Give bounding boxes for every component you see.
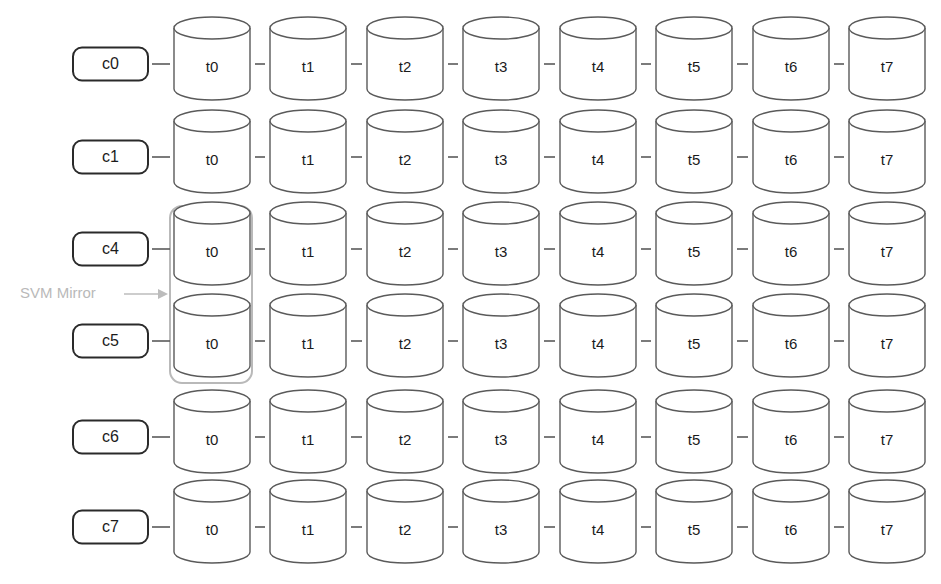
tier-cylinder-c0-t4[interactable]: t4 bbox=[560, 17, 636, 100]
node-box-shape bbox=[73, 511, 148, 544]
node-box-shape bbox=[73, 141, 148, 174]
node-box-shape bbox=[73, 325, 148, 358]
node-box-c7[interactable]: c7 bbox=[73, 511, 148, 544]
node-box-c5[interactable]: c5 bbox=[73, 325, 148, 358]
cylinder-top-ellipse bbox=[367, 294, 443, 316]
tier-cylinders-layer: t0t1t2t3t4t5t6t7t0t1t2t3t4t5t6t7t0t1t2t3… bbox=[174, 17, 925, 563]
cylinder-top-ellipse bbox=[270, 17, 346, 39]
tier-cylinder-c7-t7[interactable]: t7 bbox=[849, 480, 925, 563]
cylinder-top-ellipse bbox=[753, 110, 829, 132]
cylinder-top-ellipse bbox=[463, 110, 539, 132]
tier-cylinder-c0-t1[interactable]: t1 bbox=[270, 17, 346, 100]
tier-cylinder-c1-t6[interactable]: t6 bbox=[753, 110, 829, 193]
tier-cylinder-c7-t4[interactable]: t4 bbox=[560, 480, 636, 563]
cylinder-top-ellipse bbox=[656, 17, 732, 39]
cylinder-top-ellipse bbox=[463, 390, 539, 412]
tier-cylinder-c4-t1[interactable]: t1 bbox=[270, 202, 346, 285]
tier-cylinder-c0-t0[interactable]: t0 bbox=[174, 17, 250, 100]
tier-cylinder-c7-t3[interactable]: t3 bbox=[463, 480, 539, 563]
cylinder-top-ellipse bbox=[753, 202, 829, 224]
cylinder-top-ellipse bbox=[270, 294, 346, 316]
tier-cylinder-c5-t1[interactable]: t1 bbox=[270, 294, 346, 377]
cylinder-top-ellipse bbox=[656, 202, 732, 224]
cylinder-top-ellipse bbox=[656, 294, 732, 316]
tier-cylinder-c6-t7[interactable]: t7 bbox=[849, 390, 925, 473]
tier-cylinder-c4-t4[interactable]: t4 bbox=[560, 202, 636, 285]
cylinder-top-ellipse bbox=[656, 110, 732, 132]
node-box-c4[interactable]: c4 bbox=[73, 233, 148, 266]
cylinder-top-ellipse bbox=[270, 110, 346, 132]
cylinder-top-ellipse bbox=[753, 17, 829, 39]
tier-cylinder-c5-t7[interactable]: t7 bbox=[849, 294, 925, 377]
tier-cylinder-c1-t5[interactable]: t5 bbox=[656, 110, 732, 193]
tier-cylinder-c6-t3[interactable]: t3 bbox=[463, 390, 539, 473]
cylinder-top-ellipse bbox=[753, 294, 829, 316]
tier-cylinder-c6-t4[interactable]: t4 bbox=[560, 390, 636, 473]
tier-cylinder-c5-t5[interactable]: t5 bbox=[656, 294, 732, 377]
tier-cylinder-c7-t2[interactable]: t2 bbox=[367, 480, 443, 563]
tier-cylinder-c5-t6[interactable]: t6 bbox=[753, 294, 829, 377]
tier-cylinder-c0-t7[interactable]: t7 bbox=[849, 17, 925, 100]
cylinder-top-ellipse bbox=[656, 480, 732, 502]
tier-cylinder-c4-t2[interactable]: t2 bbox=[367, 202, 443, 285]
tier-cylinder-c5-t3[interactable]: t3 bbox=[463, 294, 539, 377]
cylinder-top-ellipse bbox=[270, 202, 346, 224]
cylinder-top-ellipse bbox=[270, 390, 346, 412]
tier-cylinder-c1-t2[interactable]: t2 bbox=[367, 110, 443, 193]
tier-cylinder-c1-t0[interactable]: t0 bbox=[174, 110, 250, 193]
tier-cylinder-c1-t1[interactable]: t1 bbox=[270, 110, 346, 193]
tier-cylinder-c4-t7[interactable]: t7 bbox=[849, 202, 925, 285]
tier-cylinder-c0-t3[interactable]: t3 bbox=[463, 17, 539, 100]
tier-cylinder-c1-t4[interactable]: t4 bbox=[560, 110, 636, 193]
cylinder-top-ellipse bbox=[463, 202, 539, 224]
node-box-c6[interactable]: c6 bbox=[73, 421, 148, 454]
cylinder-top-ellipse bbox=[849, 17, 925, 39]
cylinder-top-ellipse bbox=[560, 480, 636, 502]
node-box-c0[interactable]: c0 bbox=[73, 48, 148, 81]
node-boxes-layer: c0c1c4c5c6c7 bbox=[73, 48, 148, 544]
tier-cylinder-c0-t5[interactable]: t5 bbox=[656, 17, 732, 100]
tier-cylinder-c7-t0[interactable]: t0 bbox=[174, 480, 250, 563]
tier-cylinder-c6-t6[interactable]: t6 bbox=[753, 390, 829, 473]
tier-cylinder-c4-t6[interactable]: t6 bbox=[753, 202, 829, 285]
cylinder-top-ellipse bbox=[174, 480, 250, 502]
tier-cylinder-c1-t3[interactable]: t3 bbox=[463, 110, 539, 193]
cylinder-top-ellipse bbox=[463, 294, 539, 316]
cylinder-top-ellipse bbox=[753, 390, 829, 412]
cylinder-top-ellipse bbox=[560, 390, 636, 412]
tier-cylinder-c7-t6[interactable]: t6 bbox=[753, 480, 829, 563]
tier-cylinder-c6-t0[interactable]: t0 bbox=[174, 390, 250, 473]
cylinder-top-ellipse bbox=[849, 390, 925, 412]
tier-cylinder-c4-t3[interactable]: t3 bbox=[463, 202, 539, 285]
node-box-shape bbox=[73, 421, 148, 454]
cylinder-top-ellipse bbox=[270, 480, 346, 502]
tier-cylinder-c5-t0[interactable]: t0 bbox=[174, 294, 250, 377]
tier-cylinder-c5-t4[interactable]: t4 bbox=[560, 294, 636, 377]
tier-cylinder-c0-t2[interactable]: t2 bbox=[367, 17, 443, 100]
cylinder-top-ellipse bbox=[560, 17, 636, 39]
tier-cylinder-c5-t2[interactable]: t2 bbox=[367, 294, 443, 377]
tier-cylinder-c6-t2[interactable]: t2 bbox=[367, 390, 443, 473]
tier-cylinder-c6-t1[interactable]: t1 bbox=[270, 390, 346, 473]
cylinder-top-ellipse bbox=[656, 390, 732, 412]
cylinder-top-ellipse bbox=[367, 110, 443, 132]
tier-cylinder-c4-t0[interactable]: t0 bbox=[174, 202, 250, 285]
node-box-shape bbox=[73, 48, 148, 81]
cylinder-top-ellipse bbox=[560, 110, 636, 132]
tier-cylinder-c7-t1[interactable]: t1 bbox=[270, 480, 346, 563]
annotation-layer: SVM Mirror bbox=[20, 284, 168, 301]
node-box-shape bbox=[73, 233, 148, 266]
tier-cylinder-c0-t6[interactable]: t6 bbox=[753, 17, 829, 100]
tier-cylinder-c7-t5[interactable]: t5 bbox=[656, 480, 732, 563]
arrow-right-icon bbox=[158, 289, 168, 299]
cylinder-top-ellipse bbox=[849, 202, 925, 224]
node-box-c1[interactable]: c1 bbox=[73, 141, 148, 174]
tier-cylinder-c6-t5[interactable]: t5 bbox=[656, 390, 732, 473]
cylinder-top-ellipse bbox=[849, 110, 925, 132]
cylinder-top-ellipse bbox=[367, 202, 443, 224]
cylinder-top-ellipse bbox=[560, 202, 636, 224]
tier-cylinder-c1-t7[interactable]: t7 bbox=[849, 110, 925, 193]
tier-cylinder-c4-t5[interactable]: t5 bbox=[656, 202, 732, 285]
cylinder-top-ellipse bbox=[174, 202, 250, 224]
cylinder-top-ellipse bbox=[463, 17, 539, 39]
